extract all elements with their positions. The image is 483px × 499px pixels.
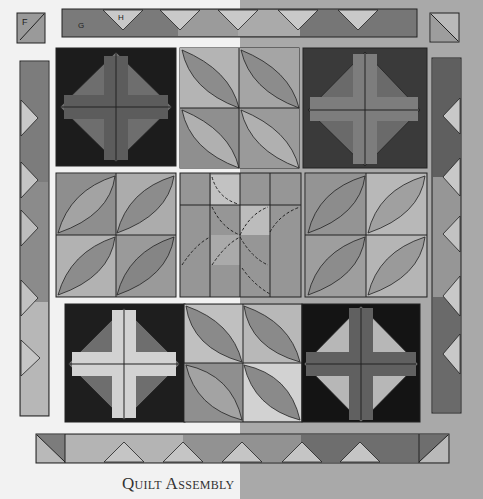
left-border-strip [20, 61, 49, 416]
top-border-label-h: H [118, 13, 124, 22]
block-r1c1-cross-diamond [56, 48, 176, 166]
block-r2c2-star-leaf [180, 173, 301, 297]
bottom-border-strip [36, 434, 449, 463]
block-r3c1-cross-diamond [65, 304, 185, 422]
top-border-label-g: G [78, 21, 84, 30]
block-r2c1-leaf [56, 173, 176, 297]
block-r3c3-cross-diamond [302, 304, 420, 422]
corner-square-top-left: F [17, 13, 45, 43]
quilt-assembly-diagram: F G H [0, 0, 483, 499]
block-r2c3-leaf [305, 173, 427, 297]
top-border-strip: G H [62, 9, 417, 37]
right-border-strip [432, 58, 461, 413]
block-r3c2-leaf [184, 304, 302, 422]
block-r1c3-cross-diamond [303, 48, 427, 168]
block-r1c2-leaf [180, 48, 299, 168]
corner-square-top-right [430, 13, 459, 42]
corner-label-f: F [22, 17, 28, 27]
diagram-caption: Quilt Assembly [122, 474, 234, 494]
